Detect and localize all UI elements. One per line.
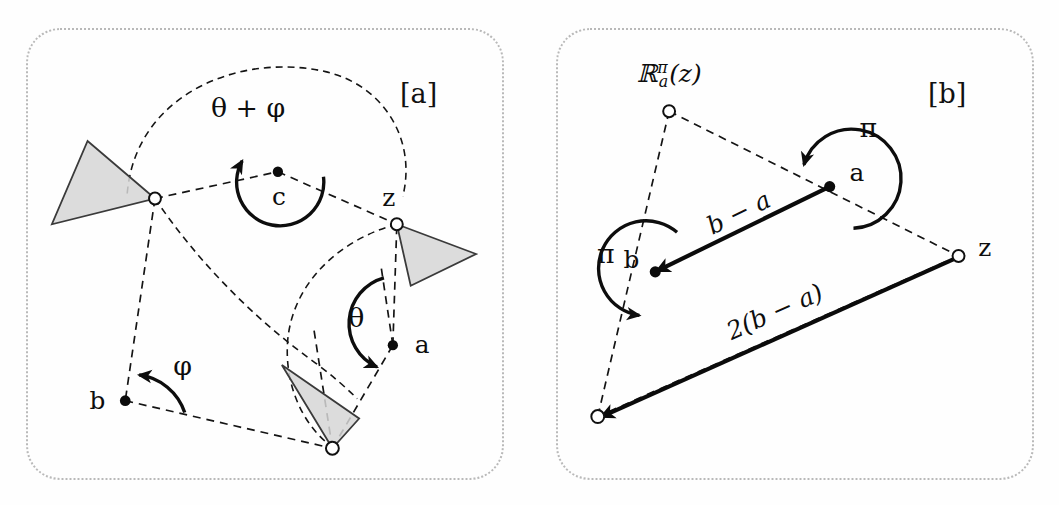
- node-open-bottom: [326, 442, 339, 455]
- label-vector-two-b-minus-a: 2(b − a): [721, 278, 827, 346]
- label-pi-at-b: π: [597, 238, 615, 269]
- label-point-c: c: [272, 182, 286, 211]
- vector-arrow-two-b-minus-a: [602, 258, 957, 417]
- segment-node1-to-c: [155, 172, 278, 199]
- segment-a-to-z: [393, 224, 397, 345]
- node-open-z: [391, 218, 403, 230]
- node-c: [273, 167, 283, 177]
- panel-b-tag: [b]: [928, 78, 966, 109]
- panel-b: ℝπa(z) π a π b z b − a 2(b − a) [b]: [556, 28, 1034, 480]
- node-a: [824, 181, 835, 192]
- triangle-right: [397, 224, 476, 285]
- label-pi-at-a: π: [860, 112, 878, 143]
- label-rotation-map-text: ℝπa(z): [637, 58, 702, 92]
- node-open-rotated-z: [663, 105, 675, 117]
- label-point-z: z: [382, 183, 395, 212]
- panel-a-tag: [a]: [400, 78, 437, 109]
- label-theta: θ: [348, 302, 364, 333]
- node-open-left: [149, 193, 161, 205]
- node-a: [388, 340, 398, 350]
- label-point-b: b: [90, 386, 106, 415]
- orbit-arc-c: [127, 67, 406, 197]
- label-point-a: a: [850, 158, 865, 187]
- node-open-translated-z: [591, 410, 604, 423]
- panel-a: θ + φ c z θ a b φ [a]: [26, 28, 504, 480]
- label-point-b: b: [624, 245, 640, 274]
- label-point-z: z: [978, 233, 991, 262]
- node-open-z: [953, 250, 965, 262]
- label-theta-plus-phi: θ + φ: [211, 92, 285, 123]
- label-point-a: a: [415, 330, 430, 359]
- node-b: [650, 266, 661, 277]
- segment-node1-to-b: [125, 198, 155, 400]
- node-b: [120, 395, 131, 406]
- label-rotation-map: ℝπa(z): [637, 58, 702, 92]
- label-phi: φ: [173, 350, 192, 381]
- segment-b-to-bottomnode: [125, 401, 332, 449]
- figure-root: θ + φ c z θ a b φ [a]: [0, 0, 1059, 505]
- segment-c-to-z: [278, 172, 397, 225]
- triangle-left: [52, 141, 155, 224]
